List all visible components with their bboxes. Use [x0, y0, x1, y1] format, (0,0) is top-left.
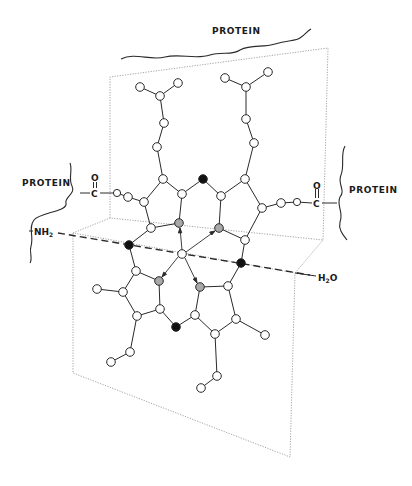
atoms: [93, 68, 301, 393]
protein-top-label: PROTEIN: [212, 26, 261, 36]
atom: [174, 79, 183, 88]
atom: [277, 199, 286, 208]
atom: [224, 282, 233, 291]
atom: [241, 175, 250, 184]
nitrogen-atom: [155, 277, 164, 286]
atom: [241, 236, 250, 245]
atom: [250, 139, 259, 148]
heme-diagram-svg: PROTEIN PROTEIN PROTEIN C O C O NH2 H2O: [0, 0, 412, 486]
atom: [261, 331, 270, 340]
atom: [153, 143, 162, 152]
nitrogen-atom: [175, 219, 184, 228]
atom: [124, 193, 133, 202]
atom: [242, 83, 251, 92]
atom: [113, 189, 120, 196]
atom: [293, 198, 300, 205]
atom: [133, 312, 142, 321]
atom: [242, 115, 251, 124]
atom: [107, 358, 116, 367]
atom: [217, 192, 226, 201]
h2o-label: H2O: [318, 273, 338, 284]
nitrogen-atom: [196, 283, 205, 292]
coordination-bonds: [162, 228, 215, 283]
meso-carbon: [125, 241, 134, 250]
atom: [156, 305, 165, 314]
meso-carbon: [237, 259, 246, 268]
h2o-bond: [295, 273, 316, 276]
atom: [136, 83, 145, 92]
bonds: [80, 72, 337, 388]
nh2-label: NH2: [34, 227, 53, 238]
atom: [232, 315, 241, 324]
back-plane: [110, 48, 328, 240]
meso-carbon: [199, 175, 208, 184]
atom: [156, 92, 165, 101]
atom: [119, 288, 128, 297]
atom: [126, 348, 135, 357]
atom: [147, 224, 156, 233]
left-carbon-label: C: [91, 189, 98, 199]
horizontal-plane: [73, 218, 323, 273]
atom: [159, 175, 168, 184]
atom: [178, 190, 187, 199]
iron-atom: [178, 250, 187, 259]
protein-right-label: PROTEIN: [349, 185, 398, 195]
nitrogen-atom: [215, 224, 224, 233]
right-carbon-label: C: [313, 199, 320, 209]
atom: [213, 372, 222, 381]
meso-carbon: [172, 323, 181, 332]
atom: [211, 330, 220, 339]
pocket-frame: [73, 48, 328, 457]
protein-left-label: PROTEIN: [22, 178, 71, 188]
atom: [160, 119, 169, 128]
atom: [93, 285, 102, 294]
atom: [140, 198, 149, 207]
right-carbonyl-o-label: O: [313, 181, 321, 191]
atom: [191, 311, 200, 320]
right-protein-brace: [339, 146, 347, 240]
atom: [264, 68, 273, 77]
atom: [197, 384, 206, 393]
left-carbonyl-o-label: O: [91, 173, 99, 183]
atom: [132, 267, 141, 276]
atom: [258, 204, 267, 213]
heme-diagram: PROTEIN PROTEIN PROTEIN C O C O NH2 H2O: [0, 0, 412, 486]
atom: [221, 74, 230, 83]
